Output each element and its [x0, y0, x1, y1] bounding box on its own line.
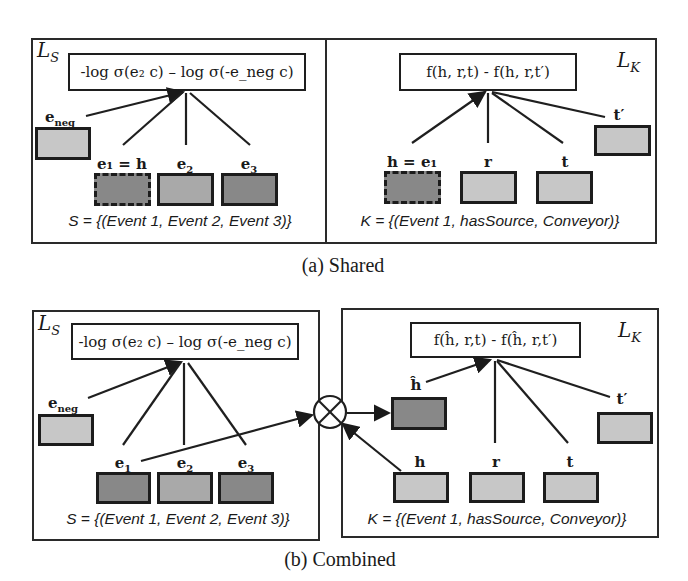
combined-t-embedding [543, 472, 599, 503]
combined-loss-s-label: LS [38, 311, 60, 338]
shared-kg-formula: f(h, r,t) - f(h, r,t′) [399, 53, 577, 91]
loss-symbol: L [38, 311, 51, 335]
shared-e3-label: e3 [241, 155, 258, 175]
shared-e1-embedding [94, 173, 151, 206]
combined-r-embedding [469, 472, 525, 503]
shared-e3-embedding [221, 173, 278, 206]
combined-e1-label: e1 [115, 454, 132, 474]
node-name: e [241, 155, 251, 173]
combined-t-label: t [567, 453, 574, 471]
node-name: e [177, 155, 187, 173]
shared-tprime-embedding [594, 125, 651, 156]
shared-triple-set: K = {(Event 1, hasSource, Conveyor)} [361, 212, 620, 230]
combined-e1-embedding [96, 472, 151, 504]
node-name: e [115, 454, 125, 472]
combined-hhat-embedding [391, 397, 447, 430]
shared-caption: (a) Shared [302, 254, 385, 277]
shared-r-label: r [484, 153, 492, 171]
loss-symbol: L [618, 318, 631, 342]
combined-triple-set: K = {(Event 1, hasSource, Conveyor)} [368, 510, 627, 528]
node-name: e [48, 394, 58, 412]
combined-e3-embedding [218, 472, 274, 504]
loss-symbol: L [617, 48, 630, 72]
loss-subscript: K [631, 330, 641, 345]
shared-eneg-label: eneg [45, 108, 75, 128]
node-subscript: neg [57, 403, 78, 414]
shared-e1-label: e₁ = h [97, 155, 147, 173]
shared-loss-k-label: LK [617, 48, 640, 75]
combined-tprime-embedding [597, 412, 653, 444]
combined-event-set: S = {(Event 1, Event 2, Event 3)} [66, 510, 290, 528]
shared-eneg-embedding [35, 127, 91, 160]
loss-subscript: S [51, 323, 60, 338]
combined-skipgram-formula: -log σ(e₂ c) – log σ(-e_neg c) [71, 323, 299, 360]
shared-tprime-label: t′ [614, 106, 625, 124]
combined-r-label: r [492, 453, 500, 471]
loss-subscript: S [50, 50, 59, 65]
combined-tprime-label: t′ [617, 390, 628, 408]
loss-subscript: K [630, 60, 640, 75]
node-name: e [238, 454, 248, 472]
shared-loss-s-label: LS [37, 38, 59, 65]
combined-h-label: h [415, 453, 426, 471]
shared-r-embedding [460, 171, 517, 204]
combined-kg-formula: f(ĥ, r,t) - f(ĥ, r,t′) [410, 322, 581, 358]
combined-e3-label: e3 [238, 454, 255, 474]
shared-e2-label: e2 [177, 155, 194, 175]
shared-event-set: S = {(Event 1, Event 2, Event 3)} [68, 212, 292, 230]
combined-eneg-label: eneg [48, 394, 78, 414]
shared-h-label: h = e₁ [387, 153, 437, 171]
combined-e2-label: e2 [177, 454, 194, 474]
shared-t-label: t [562, 153, 569, 171]
shared-h-embedding [384, 171, 441, 204]
combined-e2-embedding [157, 472, 213, 504]
combined-h-embedding [393, 472, 449, 503]
combined-eneg-embedding [38, 414, 94, 446]
node-name: e [45, 108, 55, 126]
shared-t-embedding [536, 171, 593, 204]
combined-caption: (b) Combined [284, 548, 396, 571]
shared-e2-embedding [157, 173, 214, 206]
combined-hhat-label: ĥ [411, 376, 422, 394]
shared-skipgram-formula: -log σ(e₂ c) – log σ(-e_neg c) [68, 53, 306, 91]
node-name: e [177, 454, 187, 472]
loss-symbol: L [37, 38, 50, 62]
combined-loss-k-label: LK [618, 318, 641, 345]
